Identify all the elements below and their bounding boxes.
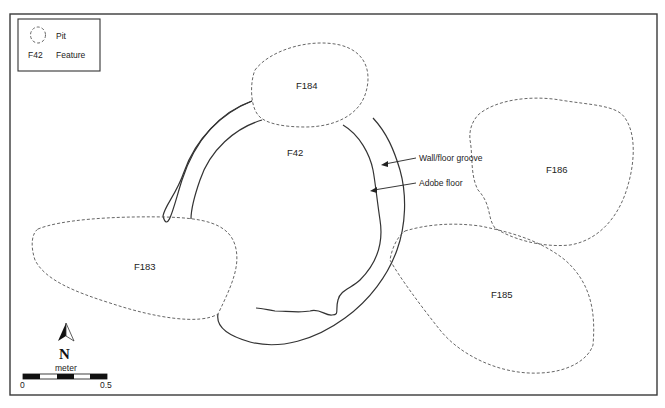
- label-f185: F185: [491, 289, 513, 300]
- adobe-floor-label: Adobe floor: [419, 178, 463, 188]
- scale-max-label: 0.5: [100, 380, 112, 390]
- legend: Pit F42 Feature: [18, 19, 100, 71]
- adobe-floor-arrowhead-icon: [370, 187, 377, 193]
- north-arrow-light-half-icon: [66, 323, 74, 341]
- wall-groove-label: Wall/floor groove: [419, 153, 483, 163]
- legend-box: [18, 19, 100, 71]
- north-arrow-dark-half-icon: [58, 323, 66, 341]
- map-frame: [10, 14, 657, 395]
- legend-feature-symbol: F42: [28, 50, 43, 60]
- f42-wall-inner-right: [256, 125, 381, 315]
- north-arrow: N: [58, 323, 74, 362]
- legend-feature-label: Feature: [56, 50, 86, 60]
- scale-unit-label: meter: [55, 363, 77, 373]
- scale-min-label: 0: [20, 380, 25, 390]
- legend-pit-label: Pit: [56, 31, 67, 41]
- wall-groove-arrowhead-icon: [381, 161, 388, 167]
- adobe-floor-leader: [374, 183, 416, 190]
- label-f184: F184: [296, 80, 318, 91]
- label-f186: F186: [546, 164, 568, 175]
- label-f42: F42: [287, 147, 303, 158]
- north-label: N: [59, 346, 70, 362]
- wall-groove-leader: [385, 158, 416, 164]
- scale-bar: meter 0 0.5: [20, 363, 112, 390]
- label-f183: F183: [134, 261, 156, 272]
- site-plan-map: Pit F42 Feature F184 F42 F183 F186 F185 …: [0, 0, 665, 408]
- f42-wall-outer: [163, 101, 252, 222]
- f42-wall-inner-left: [191, 120, 262, 219]
